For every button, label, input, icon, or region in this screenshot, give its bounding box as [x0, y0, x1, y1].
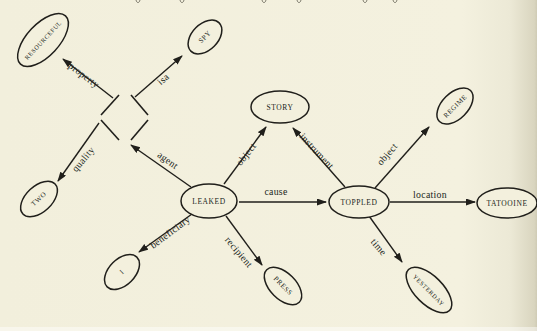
edge-label-beneficiary: beneficiary — [148, 213, 192, 250]
edge-label-object: object — [374, 141, 399, 168]
cropped-text-fragment — [297, 0, 301, 3]
edge-label-object: object — [234, 140, 259, 167]
node-i: I — [98, 248, 146, 296]
cropped-text-fragment — [393, 0, 397, 3]
node-tatooine: TATOOINE — [477, 188, 537, 218]
diamond-side — [131, 95, 148, 115]
diamond-side — [101, 120, 119, 140]
node-resourceful: RESOURCEFUL — [9, 5, 77, 75]
node-yesterday: YESTERDAY — [399, 260, 460, 321]
edge-label-instrument: instrument — [298, 131, 337, 171]
node-spy: SPY — [182, 14, 229, 61]
semantic-network-diagram: propertyisaqualityagentobjectcausebenefi… — [0, 0, 537, 331]
node-leaked: LEAKED — [181, 184, 237, 218]
node-story-label: STORY — [266, 103, 293, 112]
cropped-text-fragment — [363, 0, 367, 3]
node-unnamed-entity-diamond — [101, 95, 148, 140]
node-regime: REGIME — [430, 81, 479, 130]
node-toppled: TOPPLED — [329, 186, 389, 218]
edge-label-location: location — [413, 189, 447, 200]
book-page: propertyisaqualityagentobjectcausebenefi… — [0, 0, 537, 331]
node-press: PRESS — [258, 261, 309, 312]
node-leaked-label: LEAKED — [192, 197, 226, 206]
cropped-text-fragment — [180, 0, 184, 3]
diamond-side — [101, 95, 119, 115]
edge-label-isa: isa — [155, 71, 171, 87]
node-tatooine-label: TATOOINE — [486, 199, 527, 208]
diamond-side — [131, 120, 148, 140]
edge-label-property: property — [66, 60, 101, 90]
node-toppled-label: TOPPLED — [341, 198, 378, 207]
edge-label-agent: agent — [156, 149, 181, 171]
edge-label-cause: cause — [264, 186, 288, 197]
cropped-text-fragment — [136, 0, 140, 3]
cropped-text-fragment — [262, 0, 266, 3]
node-story: STORY — [251, 91, 309, 123]
node-two: TWO — [14, 174, 64, 223]
edge-label-recipient: recipient — [223, 234, 255, 269]
